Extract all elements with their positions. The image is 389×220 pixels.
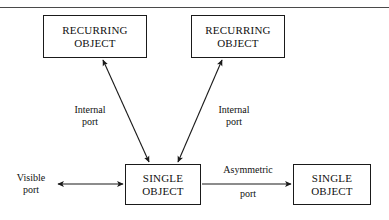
edge-label-asymmetric-port-bottom: port <box>205 188 291 200</box>
edge-label-line-2: port <box>206 116 262 128</box>
node-label-line-1: SINGLE <box>143 172 183 185</box>
node-single-object-center[interactable]: SINGLE OBJECT <box>125 164 201 205</box>
node-recurring-object-right[interactable]: RECURRING OBJECT <box>191 15 285 58</box>
diagram-canvas: left recurring object --> right recurrin… <box>0 0 389 220</box>
edge-label-internal-left: Internal port <box>62 104 118 128</box>
edge-label-line-2: port <box>62 116 118 128</box>
node-single-object-right[interactable]: SINGLE OBJECT <box>293 164 371 205</box>
node-recurring-object-left[interactable]: RECURRING OBJECT <box>43 15 147 58</box>
node-label-line-2: OBJECT <box>74 37 116 50</box>
edge-label-line-1: Visible <box>6 172 56 184</box>
node-label-line-1: SINGLE <box>312 172 352 185</box>
edge-label-visible-port: Visible port <box>6 172 56 196</box>
node-label-line-2: OBJECT <box>142 185 184 198</box>
edge-label-line-2: port <box>205 188 291 200</box>
node-label-line-2: OBJECT <box>311 185 353 198</box>
edge-label-line-1: Internal <box>62 104 118 116</box>
node-label-line-1: RECURRING <box>62 24 127 37</box>
node-label-line-1: RECURRING <box>205 24 270 37</box>
edge-label-internal-right: Internal port <box>206 104 262 128</box>
edge-label-asymmetric-port-top: Asymmetric <box>205 164 291 176</box>
edge-label-line-1: Asymmetric <box>205 164 291 176</box>
node-label-line-2: OBJECT <box>217 37 259 50</box>
edge-label-line-2: port <box>6 184 56 196</box>
edge-label-line-1: Internal <box>206 104 262 116</box>
